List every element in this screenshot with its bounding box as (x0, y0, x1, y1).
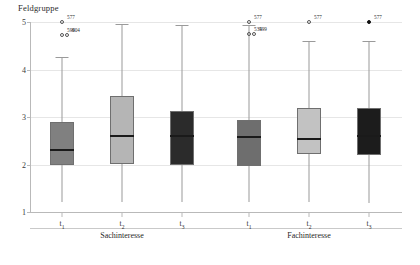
median-line (357, 135, 381, 137)
box-iqr[interactable] (237, 120, 261, 167)
whisker-upper (182, 25, 183, 111)
box-plot-box-fach-t3[interactable]: 577 (339, 22, 399, 212)
x-tick-mark (309, 212, 310, 217)
outlier-label: 604 (72, 27, 80, 33)
median-line (50, 149, 74, 151)
whisker-cap-upper (56, 57, 69, 58)
outlier-label: 577 (314, 14, 322, 20)
outlier-label: 577 (254, 14, 262, 20)
x-tick-label-t3: t3 (180, 219, 185, 230)
box-plot-box-fach-t1[interactable]: 577534599 (219, 22, 279, 212)
outlier-point[interactable] (247, 32, 251, 36)
y-axis-line (30, 22, 31, 213)
outlier-point[interactable] (252, 32, 256, 36)
box-plot-box-sach-t1[interactable]: 577599604 (32, 22, 92, 212)
y-tick-label: 2 (12, 160, 26, 169)
y-tick-label: 4 (12, 65, 26, 74)
whisker-upper (122, 24, 123, 96)
box-plot-box-fach-t2[interactable]: 577 (279, 22, 339, 212)
x-tick-mark (62, 212, 63, 217)
x-tick-label-t3: t3 (367, 219, 372, 230)
whisker-lower (249, 166, 250, 202)
y-tick-label: 1 (12, 208, 26, 217)
chart-title: Feldgruppe (18, 3, 59, 13)
outlier-label: 577 (374, 14, 382, 20)
x-tick-label-t2: t2 (307, 219, 312, 230)
panel-baseline (30, 228, 402, 229)
whisker-upper (309, 41, 310, 108)
x-tick-label-t1: t1 (247, 219, 252, 230)
outlier-point[interactable] (247, 20, 251, 24)
outlier-label: 599 (259, 26, 267, 32)
whisker-cap-upper (116, 24, 129, 25)
outlier-point[interactable] (60, 20, 64, 24)
panel-label-fachinteresse: Fachinteresse (287, 231, 331, 240)
x-tick-label-t1: t1 (60, 219, 65, 230)
boxplot-chart: Feldgruppe 12345 t1t2t3t1t2t3 Sachintere… (0, 0, 420, 265)
outlier-point[interactable] (60, 33, 64, 37)
whisker-upper (249, 25, 250, 120)
x-tick-mark (182, 212, 183, 217)
box-iqr[interactable] (170, 111, 194, 165)
median-line (297, 138, 321, 140)
box-iqr[interactable] (50, 122, 74, 165)
whisker-upper (62, 57, 63, 122)
x-tick-mark (249, 212, 250, 217)
x-tick-mark (369, 212, 370, 217)
outlier-point[interactable] (367, 20, 371, 24)
median-line (237, 136, 261, 138)
panel-label-sachinteresse: Sachinteresse (100, 231, 144, 240)
whisker-lower (62, 165, 63, 202)
whisker-lower (369, 155, 370, 203)
median-line (170, 135, 194, 137)
box-iqr[interactable] (357, 108, 381, 156)
outlier-label: 577 (67, 14, 75, 20)
y-tick-label: 5 (12, 18, 26, 27)
whisker-cap-upper (176, 25, 189, 26)
whisker-cap-upper (303, 41, 316, 42)
whisker-cap-upper (363, 41, 376, 42)
whisker-upper (369, 41, 370, 108)
outlier-point[interactable] (65, 33, 69, 37)
whisker-lower (122, 164, 123, 203)
box-iqr[interactable] (297, 108, 321, 155)
box-plot-box-sach-t2[interactable] (92, 22, 152, 212)
y-tick-label: 3 (12, 113, 26, 122)
whisker-lower (182, 165, 183, 201)
box-plot-box-sach-t3[interactable] (152, 22, 212, 212)
median-line (110, 135, 134, 137)
whisker-lower (309, 154, 310, 202)
outlier-point[interactable] (307, 20, 311, 24)
box-iqr[interactable] (110, 96, 134, 164)
x-tick-label-t2: t2 (120, 219, 125, 230)
x-tick-mark (122, 212, 123, 217)
x-axis-line (30, 212, 402, 213)
